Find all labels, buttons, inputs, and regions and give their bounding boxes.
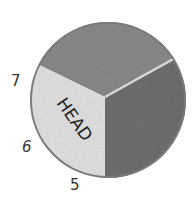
number-6: 6 [22,138,32,156]
number-5: 5 [70,176,80,194]
pie-diagram: HEAD [0,0,196,210]
number-7: 7 [11,72,21,90]
